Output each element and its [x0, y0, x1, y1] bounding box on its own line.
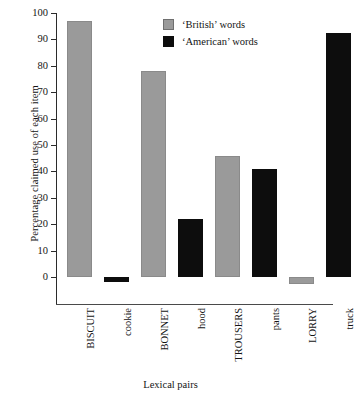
y-tick-label-40: 40	[38, 166, 49, 177]
y-tick-label-90: 90	[38, 34, 49, 45]
x-label-hood: hood	[196, 308, 207, 329]
legend-label-american: ‘American’ words	[182, 36, 258, 47]
x-label-trousers: TROUSERS	[233, 308, 244, 362]
y-tick-label-50: 50	[38, 140, 49, 151]
bar-cookie	[104, 277, 129, 282]
x-axis-tick-labels: BISCUIT cookie BONNET hood TROUSERS pant…	[56, 305, 333, 371]
figure-caption-cropped	[0, 400, 341, 410]
y-tick-100: 100	[51, 13, 56, 14]
bar-pants	[252, 169, 277, 277]
y-tick-label-60: 60	[38, 113, 49, 124]
y-tick-label-10: 10	[38, 245, 49, 256]
x-label-bonnet: BONNET	[159, 308, 170, 351]
y-tick-50: 50	[51, 145, 56, 146]
x-label-cookie: cookie	[122, 308, 133, 336]
bar-bonnet	[141, 71, 166, 277]
y-tick-label-30: 30	[38, 193, 49, 204]
x-axis-title: Lexical pairs	[0, 379, 341, 390]
plot-area: 100 90 80 70 60 50 40 30 20 10 0	[56, 13, 332, 303]
chart-legend: ‘British’ words ‘American’ words	[163, 17, 258, 51]
bar-hood	[178, 219, 203, 277]
legend-item-british: ‘British’ words	[163, 17, 258, 31]
bar-truck	[326, 33, 351, 277]
y-tick-label-0: 0	[43, 272, 48, 283]
y-tick-30: 30	[51, 198, 56, 199]
y-tick-0: 0	[51, 277, 56, 278]
legend-label-british: ‘British’ words	[182, 19, 245, 30]
x-label-pants: pants	[270, 308, 281, 330]
x-label-lorry: LORRY	[307, 308, 318, 343]
y-tick-label-100: 100	[32, 8, 48, 19]
y-tick-40: 40	[51, 171, 56, 172]
bar-biscuit	[67, 21, 92, 277]
y-tick-label-80: 80	[38, 61, 49, 72]
bar-trousers	[215, 156, 240, 277]
y-tick-60: 60	[51, 119, 56, 120]
legend-swatch-american-icon	[163, 36, 174, 47]
y-axis-line	[56, 13, 57, 304]
bar-lorry	[289, 277, 314, 284]
y-tick-90: 90	[51, 39, 56, 40]
legend-item-american: ‘American’ words	[163, 34, 258, 48]
y-tick-label-20: 20	[38, 219, 49, 230]
y-tick-20: 20	[51, 224, 56, 225]
x-label-truck: truck	[344, 308, 355, 330]
y-tick-70: 70	[51, 92, 56, 93]
legend-swatch-british-icon	[163, 19, 174, 30]
x-label-biscuit: BISCUIT	[85, 308, 96, 349]
y-tick-label-70: 70	[38, 87, 49, 98]
y-tick-10: 10	[51, 251, 56, 252]
y-tick-80: 80	[51, 66, 56, 67]
